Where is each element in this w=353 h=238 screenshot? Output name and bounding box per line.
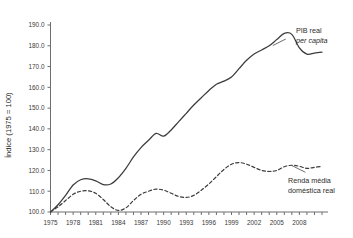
x-tick-label: 1978 bbox=[66, 219, 81, 226]
x-tick-label: 1996 bbox=[202, 219, 217, 226]
y-tick-label: 130.0 bbox=[29, 146, 45, 153]
x-axis: 1975197819811984198719901993199619992002… bbox=[43, 212, 328, 226]
y-axis-title: Índice (1975 = 100) bbox=[4, 92, 13, 158]
series-line-pib-real bbox=[51, 33, 323, 212]
x-tick-label: 1984 bbox=[111, 219, 126, 226]
y-tick-label: 160.0 bbox=[29, 84, 45, 91]
y-tick-label: 110.0 bbox=[29, 188, 45, 195]
y-tick-label: 170.0 bbox=[29, 63, 45, 70]
leader-line-pib bbox=[273, 39, 286, 46]
series-label-pib-line2: per capita bbox=[295, 36, 328, 45]
y-tick-label: 140.0 bbox=[29, 125, 45, 132]
y-tick-label: 120.0 bbox=[29, 167, 45, 174]
x-tick-label: 1990 bbox=[157, 219, 172, 226]
series-label-renda-line1: Renda média bbox=[288, 176, 331, 185]
y-tick-label: 190.0 bbox=[29, 21, 45, 28]
x-tick-label: 1993 bbox=[179, 219, 194, 226]
series-line-renda-media bbox=[51, 163, 323, 212]
y-tick-label: 100.0 bbox=[29, 208, 45, 215]
x-tick-label: 1987 bbox=[134, 219, 149, 226]
y-axis: 100.0110.0120.0130.0140.0150.0160.0170.0… bbox=[29, 21, 51, 215]
series-label-renda-line2: doméstica real bbox=[288, 186, 335, 195]
y-axis-tick-labels: 100.0110.0120.0130.0140.0150.0160.0170.0… bbox=[29, 21, 45, 215]
x-tick-label: 2008 bbox=[292, 219, 307, 226]
x-tick-label: 2005 bbox=[270, 219, 285, 226]
series-label-pib-line1: PIB real bbox=[296, 26, 322, 35]
x-axis-tick-labels: 1975197819811984198719901993199619992002… bbox=[43, 219, 307, 226]
x-tick-label: 1981 bbox=[89, 219, 104, 226]
y-tick-label: 150.0 bbox=[29, 104, 45, 111]
x-tick-label: 1975 bbox=[43, 219, 58, 226]
x-tick-label: 1999 bbox=[224, 219, 239, 226]
series-paths bbox=[51, 33, 323, 212]
x-tick-label: 2002 bbox=[247, 219, 262, 226]
leader-line-renda bbox=[291, 165, 305, 172]
line-chart: 100.0110.0120.0130.0140.0150.0160.0170.0… bbox=[0, 0, 353, 238]
y-tick-label: 180.0 bbox=[29, 42, 45, 49]
series-annotations: PIB real per capita Renda média doméstic… bbox=[273, 26, 335, 195]
chart-container: 100.0110.0120.0130.0140.0150.0160.0170.0… bbox=[0, 0, 353, 238]
